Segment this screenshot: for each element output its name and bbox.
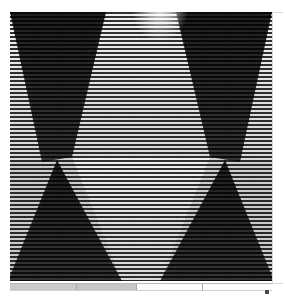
bar-segment-2[interactable] <box>77 284 137 290</box>
bar-segment-3[interactable] <box>137 284 203 290</box>
horizontal-segment-bar[interactable] <box>10 283 272 291</box>
right-side-panel[interactable] <box>272 12 283 284</box>
app-root <box>0 0 285 298</box>
triangle-geometry <box>10 12 272 281</box>
corner-marker-icon <box>265 289 270 295</box>
bar-segment-4[interactable] <box>203 284 272 290</box>
scanline-image-panel[interactable] <box>10 12 272 281</box>
bar-segment-1[interactable] <box>10 284 77 290</box>
